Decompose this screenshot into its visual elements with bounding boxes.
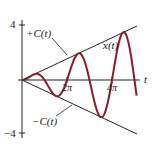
tick-label-2pi: 2π bbox=[62, 83, 72, 93]
plot-area bbox=[0, 0, 156, 144]
x-axis-label: t bbox=[144, 74, 147, 85]
x-t-label: x(t) bbox=[103, 40, 118, 51]
minus-c-label: −C(t) bbox=[32, 116, 57, 127]
tick-label-4pi: 4π bbox=[107, 83, 117, 93]
resonance-chart: 4 −4 t 2π 4π +C(t) −C(t) x(t) bbox=[0, 0, 156, 144]
y-label-4: 4 bbox=[10, 19, 16, 30]
plus-c-label: +C(t) bbox=[26, 28, 51, 39]
y-label-neg4: −4 bbox=[4, 128, 16, 139]
plus-c-leader bbox=[52, 38, 67, 55]
x-t-curve bbox=[22, 32, 137, 117]
minus-c-leader bbox=[56, 105, 72, 116]
